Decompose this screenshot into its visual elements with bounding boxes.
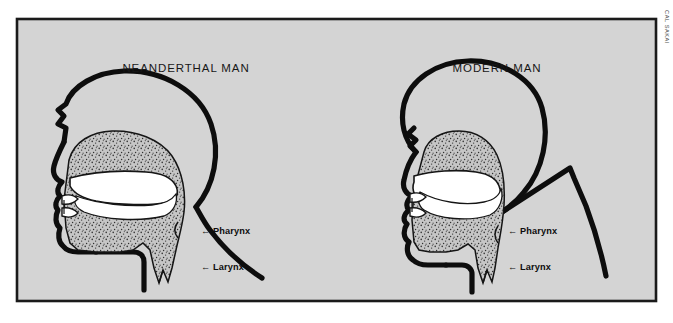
panel-title-neandertal: NEANDERTHAL MAN — [122, 62, 249, 74]
panel-title-modern: MODERN MAN — [453, 62, 542, 74]
vocal-tract-comparison-figure: NEANDERTHAL MAN ← Pharynx ← Larynx — [0, 0, 673, 323]
annotation-larynx-modern: ← Larynx — [508, 262, 552, 272]
annotation-larynx-neandertal: ← Larynx — [201, 262, 245, 272]
figure-root: NEANDERTHAL MAN ← Pharynx ← Larynx — [0, 0, 673, 323]
annotation-pharynx-neandertal: ← Pharynx — [201, 226, 251, 236]
credit-line: CAL SAKAI — [664, 10, 670, 44]
annotation-pharynx-modern: ← Pharynx — [508, 226, 558, 236]
